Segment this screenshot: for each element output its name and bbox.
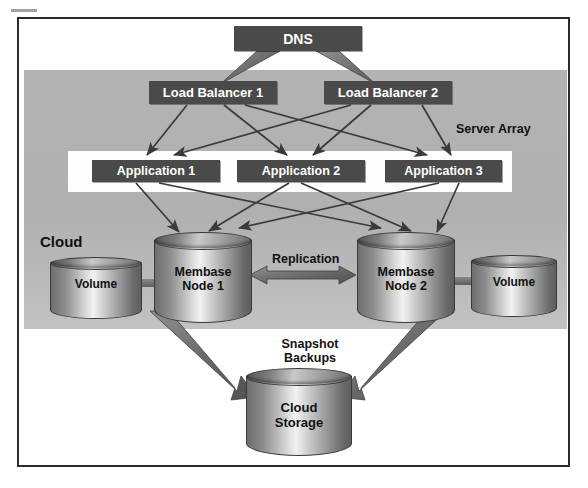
node-volume-right[interactable]: Volume <box>471 255 557 317</box>
node-load-balancer-1[interactable]: Load Balancer 1 <box>149 81 277 104</box>
node-cloud-storage[interactable]: Cloud Storage <box>246 368 352 456</box>
cylinder-body <box>357 240 455 323</box>
cylinder-body <box>471 261 557 317</box>
cylinder-body <box>246 376 352 456</box>
diagram-frame: Cloud Server Array DNS Load Balancer 1 L… <box>17 17 570 467</box>
diagram-canvas: Cloud Server Array DNS Load Balancer 1 L… <box>0 0 588 488</box>
node-volume-left[interactable]: Volume <box>50 257 142 319</box>
node-load-balancer-2[interactable]: Load Balancer 2 <box>324 81 452 104</box>
scan-artifact <box>11 9 37 12</box>
edge-label-snapshot-backups: Snapshot Backups <box>266 337 354 365</box>
snapshot-backups-line2: Backups <box>266 351 354 365</box>
cylinder-body <box>154 240 252 323</box>
cylinder-body <box>50 263 142 319</box>
cylinder-cap-shadow <box>246 368 352 384</box>
node-application-1[interactable]: Application 1 <box>92 160 220 182</box>
node-membase-node-1[interactable]: Membase Node 1 <box>154 232 252 323</box>
node-application-2[interactable]: Application 2 <box>237 160 365 182</box>
server-array-label: Server Array <box>456 123 531 137</box>
edge-label-replication: Replication <box>272 253 339 267</box>
node-membase-node-2[interactable]: Membase Node 2 <box>357 232 455 323</box>
node-dns[interactable]: DNS <box>234 26 362 51</box>
snapshot-backups-line1: Snapshot <box>266 337 354 351</box>
node-application-3[interactable]: Application 3 <box>385 160 502 182</box>
cloud-region-label: Cloud <box>40 234 83 250</box>
